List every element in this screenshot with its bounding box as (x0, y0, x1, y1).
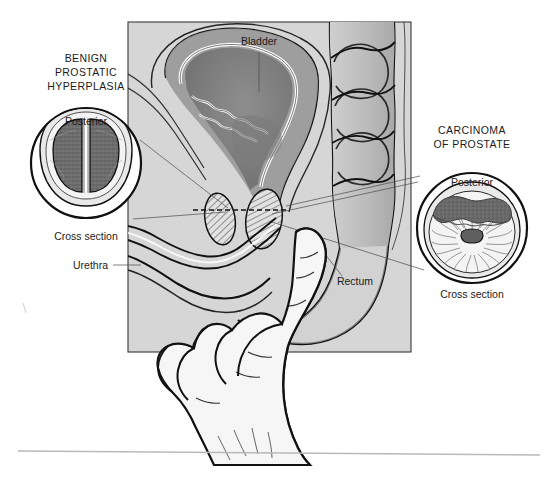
carcinoma-of-prostate-inset[interactable]: Posterior (417, 173, 527, 283)
figure-canvas: Posterior BENIGN PROSTATIC HYPERPLASIA C… (0, 0, 549, 477)
cross-section-label-right: Cross section (440, 288, 504, 300)
posterior-label-left: Posterior (65, 115, 108, 127)
carcinoma-title-line2: OF PROSTATE (434, 138, 511, 150)
posterior-label-right: Posterior (451, 176, 494, 188)
sagittal-pelvis-panel (128, 22, 411, 352)
carcinoma-title-line1: CARCINOMA (438, 124, 506, 136)
rectum-label: Rectum (337, 275, 373, 287)
scan-artifact-mark (23, 303, 26, 313)
bph-title: BENIGN PROSTATIC HYPERPLASIA (47, 52, 124, 92)
bladder-label: Bladder (241, 35, 278, 47)
carcinoma-title: CARCINOMA OF PROSTATE (434, 124, 511, 150)
bph-title-line2: PROSTATIC (55, 66, 117, 78)
benign-prostatic-hyperplasia-inset[interactable]: Posterior (31, 105, 141, 218)
carcinoma-tumor-mass (433, 197, 511, 224)
bph-title-line1: BENIGN (65, 52, 108, 64)
prostate-examination-figure: Posterior BENIGN PROSTATIC HYPERPLASIA C… (0, 0, 549, 477)
bph-title-line3: HYPERPLASIA (47, 80, 124, 92)
cross-section-label-left: Cross section (54, 230, 118, 242)
urethra-label: Urethra (73, 259, 108, 271)
urethra-lumen (461, 229, 483, 243)
